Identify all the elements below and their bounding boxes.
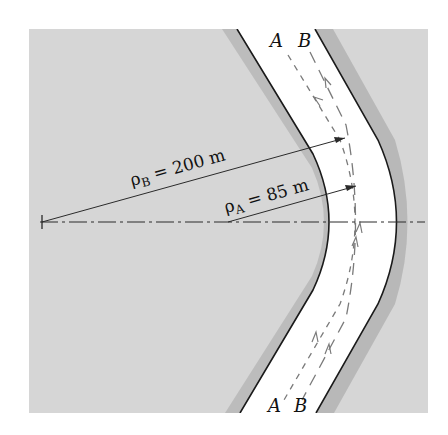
road-curve-diagram: ρB = 200 m ρA = 85 m A B A B <box>0 0 448 435</box>
path-a-label-bottom: A <box>266 395 281 416</box>
path-b-label-top: B <box>297 30 311 51</box>
path-a-label-top: A <box>268 30 283 51</box>
path-b-label-bottom: B <box>293 395 307 416</box>
